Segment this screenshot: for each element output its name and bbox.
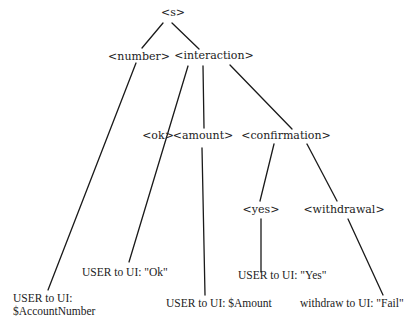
edge-interaction-confirmation bbox=[230, 65, 292, 129]
node-amount: <amount> bbox=[173, 130, 234, 142]
edge-number-account bbox=[48, 63, 136, 290]
leaf-ok: USER to UI: "Ok" bbox=[82, 266, 168, 279]
leaf-account-line1: USER to UI: bbox=[13, 292, 95, 305]
leaf-account-line2: $AccountNumber bbox=[13, 305, 95, 318]
node-withdrawal: <withdrawal> bbox=[303, 204, 384, 216]
node-s: <s> bbox=[161, 7, 185, 19]
edge-confirmation-yes bbox=[260, 144, 274, 201]
node-interaction: <interaction> bbox=[174, 50, 254, 62]
node-number: <number> bbox=[108, 51, 170, 63]
node-ok: <ok> bbox=[142, 130, 174, 142]
edge-interaction-amount bbox=[203, 66, 204, 128]
edge-s-number bbox=[142, 23, 163, 48]
node-yes: <yes> bbox=[243, 204, 280, 216]
edge-amount-leaf bbox=[202, 148, 205, 295]
edge-interaction-ok bbox=[129, 66, 188, 262]
leaf-account-number: USER to UI: $AccountNumber bbox=[13, 292, 95, 318]
leaf-withdrawal: withdraw to UI: "Fail" bbox=[300, 297, 404, 310]
edge-withdrawal-leaf bbox=[348, 219, 383, 295]
leaf-amount: USER to UI: $Amount bbox=[166, 297, 272, 310]
edge-confirmation-withdrawal bbox=[307, 144, 337, 201]
edge-s-interaction bbox=[172, 23, 199, 49]
leaf-yes: USER to UI: "Yes" bbox=[238, 269, 326, 282]
node-confirmation: <confirmation> bbox=[241, 130, 331, 142]
parse-tree-diagram: <s> <number> <interaction> <ok> <amount>… bbox=[0, 0, 420, 326]
